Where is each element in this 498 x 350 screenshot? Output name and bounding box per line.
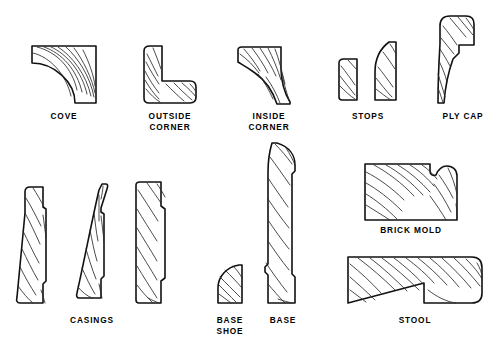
profile-ply-cap — [438, 16, 474, 103]
profile-casing-1 — [17, 187, 46, 303]
caption-outside-corner-2: CORNER — [149, 122, 190, 132]
profile-inside-corner — [238, 47, 290, 104]
casing-3-outline — [136, 182, 165, 303]
molding-profiles-figure: COVE OUTSIDE CORNER — [0, 0, 498, 350]
brick-mold-outline — [365, 164, 457, 220]
caption-outside-corner-1: OUTSIDE — [149, 111, 192, 121]
profile-stop-small — [339, 59, 357, 100]
caption-brick-mold: BRICK MOLD — [380, 225, 442, 235]
profile-stop-large — [375, 42, 396, 100]
profile-casing-2 — [77, 184, 108, 298]
base-outline — [265, 143, 295, 303]
caption-base: BASE — [270, 315, 296, 325]
stop-large-outline — [375, 42, 396, 100]
caption-casings: CASINGS — [70, 315, 114, 325]
caption-ply-cap: PLY CAP — [443, 111, 484, 121]
caption-stops: STOPS — [352, 111, 384, 121]
caption-inside-corner-2: CORNER — [248, 122, 289, 132]
caption-inside-corner-1: INSIDE — [253, 111, 286, 121]
profiles-diagram: COVE OUTSIDE CORNER — [0, 0, 498, 350]
caption-base-shoe-1: BASE — [217, 315, 243, 325]
caption-stool: STOOL — [399, 315, 432, 325]
profile-outside-corner — [144, 46, 196, 103]
outside-corner-outline — [144, 46, 196, 103]
profile-casing-3 — [136, 182, 165, 303]
profile-base-shoe — [218, 265, 242, 303]
caption-cove: COVE — [51, 111, 78, 121]
profile-cove — [32, 46, 96, 103]
profile-stool — [348, 257, 482, 303]
profile-base — [265, 143, 295, 303]
casing-1-outline — [17, 187, 46, 303]
caption-base-shoe-2: SHOE — [217, 326, 244, 336]
profile-brick-mold — [365, 164, 457, 220]
